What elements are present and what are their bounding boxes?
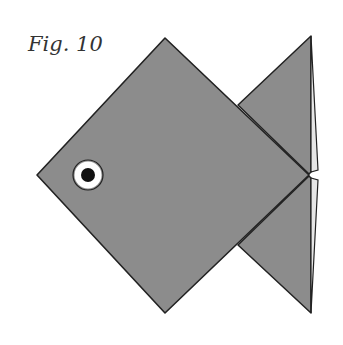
eye-icon <box>73 160 103 190</box>
tail-lower-edge <box>311 178 318 313</box>
origami-fish-diagram <box>0 0 343 345</box>
tail-upper-edge <box>311 36 318 172</box>
pupil <box>81 168 95 182</box>
